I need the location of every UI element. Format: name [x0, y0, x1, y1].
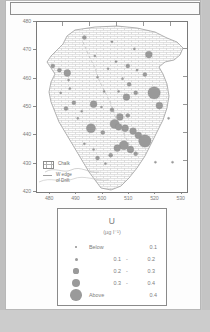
legend-high-value: 0.1	[135, 244, 157, 250]
y-tick-label: 420	[11, 188, 31, 194]
legend-row: 0.3-0.4	[65, 277, 159, 289]
drift-line-swatch-icon	[43, 172, 52, 178]
legend-low-value: 0.1	[87, 256, 121, 262]
data-point-symbol	[167, 117, 169, 119]
data-point-symbol	[115, 123, 122, 130]
y-tick-label: 430	[11, 160, 31, 166]
top-blank-bar	[10, 2, 200, 15]
legend-dash: -	[121, 280, 133, 286]
drift-key-label: W edge of Drift	[56, 172, 72, 183]
data-point-symbol	[90, 101, 97, 108]
map-plot-frame: Chalk W edge of Drift	[36, 21, 188, 193]
data-point-symbol	[110, 108, 114, 112]
data-point-symbol	[154, 161, 156, 163]
legend-circle-icon	[72, 279, 80, 287]
x-tick-label: 510	[118, 195, 138, 201]
data-point-symbol	[156, 102, 163, 109]
legend-row: 0.1-0.2	[65, 253, 159, 265]
x-tick-label: 480	[39, 195, 59, 201]
y-tick-label: 450	[11, 103, 31, 109]
data-point-symbol	[136, 69, 138, 71]
tick-top-4	[143, 22, 144, 26]
data-point-symbol	[101, 131, 105, 135]
legend-circle-icon	[75, 258, 78, 261]
drift-key-label-line2: of Drift	[56, 178, 70, 183]
legend-row: Below0.1	[65, 241, 159, 253]
chalk-hatch-swatch-icon	[43, 161, 54, 169]
data-point-symbol	[126, 114, 130, 118]
tick-top-1	[62, 22, 63, 26]
legend-dash: -	[121, 256, 133, 262]
data-point-symbol	[145, 51, 152, 58]
data-point-symbol	[116, 114, 123, 121]
data-point-symbol	[96, 156, 100, 160]
legend-label: Below0.1	[87, 244, 159, 250]
legend-word: Above	[87, 292, 123, 298]
data-point-symbol	[57, 68, 61, 72]
y-tick-label: 460	[11, 75, 31, 81]
data-point-symbol	[94, 55, 96, 57]
legend-row: 0.2-0.3	[65, 265, 159, 277]
data-point-symbol	[72, 101, 76, 105]
x-tick-label: 500	[92, 195, 112, 201]
data-point-symbol	[143, 72, 147, 76]
data-point-symbol	[115, 61, 117, 63]
legend-symbol	[65, 258, 87, 261]
legend-high-value: 0.3	[133, 268, 155, 274]
data-point-symbol	[77, 117, 79, 119]
data-point-symbol	[122, 125, 129, 132]
data-point-symbol	[134, 91, 138, 95]
legend-low-value: 0.2	[87, 268, 121, 274]
legend-row: Above0.4	[65, 289, 159, 301]
legend-word: Below	[87, 244, 123, 250]
legend-label: Above0.4	[87, 292, 159, 298]
x-tick-label: 490	[65, 195, 85, 201]
data-point-symbol	[117, 90, 119, 92]
page-bottom-shade	[0, 310, 210, 332]
figure: 480470460450440430420 480490500510520530	[11, 18, 195, 306]
legend-high-value: 0.4	[133, 280, 155, 286]
data-point-symbol	[126, 64, 130, 68]
drift-key-label-line1: W edge	[56, 172, 72, 177]
legend-title: U	[58, 216, 166, 226]
y-tick-label: 440	[11, 131, 31, 137]
data-point-symbol	[92, 148, 94, 150]
data-point-symbol	[171, 161, 173, 163]
data-point-symbol	[127, 146, 134, 153]
data-point-symbol	[121, 78, 123, 80]
data-point-symbol	[133, 48, 135, 50]
data-point-symbol	[127, 82, 131, 86]
data-point-symbol	[86, 124, 95, 133]
tick-right-5	[183, 160, 187, 161]
x-tick-label: 530	[171, 195, 191, 201]
tick-top-2	[89, 22, 90, 26]
legend-high-value: 0.4	[135, 292, 157, 298]
y-tick-label: 480	[11, 18, 31, 24]
legend-high-value: 0.2	[133, 256, 155, 262]
scanned-page: 480470460450440430420 480490500510520530	[0, 0, 210, 332]
tick-right-1	[183, 48, 187, 49]
legend-dash: -	[121, 268, 133, 274]
data-point-symbol	[64, 70, 71, 77]
legend-label: 0.3-0.4	[87, 280, 159, 286]
legend-label: 0.2-0.3	[87, 268, 159, 274]
legend-low-value: 0.3	[87, 280, 121, 286]
legend-circle-icon	[75, 246, 77, 248]
legend-symbol	[65, 289, 87, 301]
legend-label: 0.1-0.2	[87, 256, 159, 262]
data-point-symbol	[111, 41, 113, 43]
tick-right-3	[183, 104, 187, 105]
legend-rows: Below0.10.1-0.20.2-0.30.3-0.4Above0.4	[58, 241, 166, 301]
data-point-symbol	[64, 106, 68, 110]
data-point-symbol	[67, 79, 69, 81]
map-panel: 480470460450440430420 480490500510520530	[11, 18, 195, 200]
tick-right-4	[183, 132, 187, 133]
tick-top-3	[116, 22, 117, 26]
data-point-symbol	[107, 68, 109, 70]
page-right-edge	[202, 0, 210, 332]
data-point-symbol	[83, 143, 85, 145]
map-inner-key: Chalk W edge of Drift	[43, 161, 72, 186]
data-point-symbol	[82, 36, 86, 40]
map-key-chalk-row: Chalk	[43, 161, 72, 169]
legend-symbol	[65, 268, 87, 273]
